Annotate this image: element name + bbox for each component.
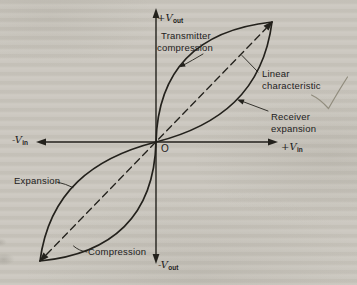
y-negative-subscript: out	[168, 264, 178, 271]
receiver-expansion-leader	[240, 101, 268, 112]
receiver-expansion-label-line1: Receiver	[271, 111, 310, 122]
expansion-label: Expansion	[14, 175, 60, 186]
compression-label: Compression	[88, 246, 146, 257]
x-positive-subscript: in	[297, 146, 303, 153]
x-axis-left-arrow-icon	[36, 139, 46, 146]
y-axis-positive-label: +Vout	[157, 12, 183, 26]
transmitter-compression-label-line1: Transmitter	[161, 30, 211, 41]
receiver-expansion-label-line2: expansion	[271, 123, 316, 134]
x-positive-variable: +V	[281, 141, 297, 152]
x-negative-variable: -V	[12, 134, 22, 145]
linear-characteristic-leader	[242, 56, 258, 73]
x-axis-negative-label: -Vin	[12, 134, 28, 148]
linear-characteristic-label-line1: Linear	[262, 68, 290, 79]
y-axis-negative-label: -Vout	[158, 259, 178, 273]
linear-characteristic-label-line2: characteristic	[262, 80, 321, 91]
x-axis-right-arrow-icon	[268, 139, 278, 146]
transmitter-compression-label-line2: compression	[157, 42, 213, 53]
y-negative-variable: -V	[158, 259, 168, 270]
y-positive-variable: +V	[157, 12, 173, 23]
x-axis-positive-label: +Vin	[281, 141, 303, 155]
receiver-leader-arrow-icon	[237, 100, 245, 105]
x-negative-subscript: in	[22, 139, 28, 146]
companding-characteristics-diagram: +Vout -Vout -Vin +Vin O Transmitter comp…	[0, 0, 357, 285]
origin-label: O	[161, 143, 169, 154]
y-positive-subscript: out	[173, 17, 183, 24]
